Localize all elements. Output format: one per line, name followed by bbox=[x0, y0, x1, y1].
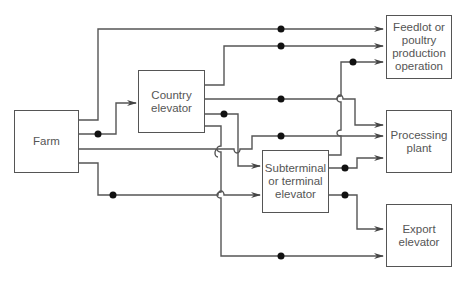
node-country-elevator-label: Country elevator bbox=[147, 89, 196, 115]
junction-dot bbox=[342, 165, 349, 172]
junction-dot bbox=[278, 96, 285, 103]
junction-dot bbox=[278, 26, 285, 33]
junction-dot bbox=[221, 111, 228, 118]
node-export-elevator: Export elevator bbox=[386, 204, 452, 267]
node-export-elevator-label: Export elevator bbox=[395, 223, 443, 249]
node-processing-plant-label: Processing plant bbox=[390, 129, 448, 155]
edge-country-feedlot bbox=[204, 46, 383, 85]
node-country-elevator: Country elevator bbox=[138, 70, 205, 133]
junction-dot bbox=[350, 59, 357, 66]
node-processing-plant: Processing plant bbox=[386, 110, 452, 173]
junction-dot bbox=[95, 131, 102, 138]
edge-farm-processing bbox=[78, 136, 383, 157]
edge-subterminal-export bbox=[328, 195, 383, 229]
junction-dot bbox=[278, 133, 285, 140]
junction-dot bbox=[110, 192, 117, 199]
junction-dot bbox=[342, 192, 349, 199]
node-subterminal: Subterminal or terminal elevator bbox=[262, 150, 329, 213]
edge-farm-country bbox=[78, 103, 136, 134]
junction-dot bbox=[278, 253, 285, 260]
edge-subterminal-processing bbox=[328, 158, 383, 168]
node-feedlot: Feedlot or poultry production operation bbox=[386, 15, 452, 79]
node-farm: Farm bbox=[14, 110, 79, 173]
node-feedlot-label: Feedlot or poultry production operation bbox=[391, 21, 447, 73]
edge-country-processing bbox=[204, 95, 383, 125]
edge-farm-feedlot bbox=[78, 29, 383, 120]
junction-dot bbox=[278, 43, 285, 50]
edge-farm-subterminal bbox=[78, 163, 260, 195]
node-subterminal-label: Subterminal or terminal elevator bbox=[265, 162, 326, 201]
node-farm-label: Farm bbox=[33, 135, 60, 148]
